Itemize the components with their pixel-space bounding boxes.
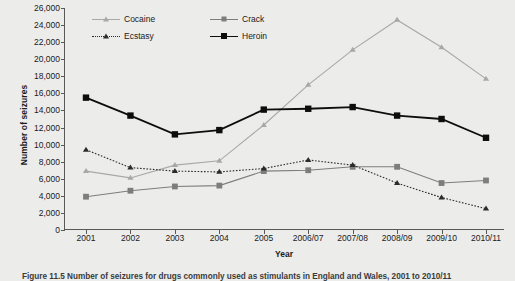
y-tick-label: 14,000: [14, 106, 60, 115]
chart-legend: CocaineCrackEcstasyHeroin: [92, 12, 322, 46]
legend-marker: [103, 17, 109, 22]
y-tick-mark: [61, 128, 65, 129]
y-tick-label: 2,000: [14, 208, 60, 217]
y-tick-mark: [61, 25, 65, 26]
figure-caption: Figure 11.5 Number of seizures for drugs…: [22, 271, 502, 281]
y-tick-label: 10,000: [14, 140, 60, 149]
y-tick-mark: [61, 162, 65, 163]
x-tick-label: 2006/07: [293, 233, 324, 243]
data-point: [394, 17, 400, 22]
data-point: [305, 157, 311, 162]
legend-swatch-ecstasy-icon: [92, 31, 120, 41]
data-point: [439, 180, 445, 186]
series-crack: [83, 164, 489, 200]
y-tick-label: 26,000: [14, 4, 60, 13]
legend-item-cocaine[interactable]: Cocaine: [92, 12, 155, 26]
y-tick-mark: [61, 230, 65, 231]
data-point: [305, 106, 311, 112]
x-tick-label: 2002: [121, 233, 140, 243]
data-point: [83, 194, 89, 200]
series-line: [86, 98, 486, 138]
data-point: [128, 188, 134, 194]
data-point: [83, 147, 89, 152]
legend-label: Ecstasy: [124, 31, 154, 41]
y-tick-label: 18,000: [14, 72, 60, 81]
x-axis-tick-labels: 200120022003200420052006/072007/082008/0…: [64, 233, 504, 247]
y-tick-mark: [61, 42, 65, 43]
legend-item-crack[interactable]: Crack: [210, 12, 264, 26]
y-tick-mark: [61, 93, 65, 94]
x-tick-label: 2008/09: [382, 233, 413, 243]
data-point: [483, 178, 489, 184]
x-tick-label: 2010/11: [471, 233, 501, 243]
series-heroin: [83, 94, 489, 141]
chart-figure: Number of seizures 02,0004,0006,0008,000…: [0, 0, 515, 281]
series-line: [86, 150, 486, 209]
legend-label: Cocaine: [124, 14, 155, 24]
data-point: [483, 135, 489, 141]
data-point: [350, 47, 356, 52]
legend-label: Heroin: [242, 31, 267, 41]
y-tick-label: 8,000: [14, 157, 60, 166]
y-tick-mark: [61, 76, 65, 77]
legend-marker: [221, 33, 227, 39]
y-tick-label: 20,000: [14, 55, 60, 64]
y-tick-label: 4,000: [14, 191, 60, 200]
y-tick-label: 0: [14, 226, 60, 235]
data-point: [349, 104, 355, 110]
legend-swatch-crack-icon: [210, 14, 238, 24]
data-point: [438, 44, 444, 49]
y-tick-mark: [61, 179, 65, 180]
legend-swatch-heroin-icon: [210, 31, 238, 41]
x-tick-label: 2009/10: [426, 233, 457, 243]
data-point: [127, 112, 133, 118]
data-point: [83, 94, 89, 100]
y-tick-mark: [61, 196, 65, 197]
y-tick-label: 22,000: [14, 38, 60, 47]
y-axis-tick-labels: 02,0004,0006,0008,00010,00012,00014,0001…: [14, 8, 60, 230]
legend-item-heroin[interactable]: Heroin: [210, 29, 267, 43]
legend-item-ecstasy[interactable]: Ecstasy: [92, 29, 154, 43]
data-point: [394, 112, 400, 118]
y-tick-mark: [61, 59, 65, 60]
x-axis-title: Year: [64, 249, 504, 259]
x-tick-label: 2007/08: [337, 233, 368, 243]
x-tick-label: 2005: [254, 233, 273, 243]
y-tick-label: 16,000: [14, 89, 60, 98]
x-tick-label: 2003: [165, 233, 184, 243]
legend-marker: [222, 17, 227, 22]
data-point: [216, 183, 222, 189]
x-tick-label: 2004: [210, 233, 229, 243]
data-point: [438, 116, 444, 122]
y-tick-label: 6,000: [14, 174, 60, 183]
y-tick-mark: [61, 213, 65, 214]
data-point: [438, 194, 444, 199]
data-point: [483, 76, 489, 81]
y-tick-mark: [61, 110, 65, 111]
legend-swatch-cocaine-icon: [92, 14, 120, 24]
data-point: [216, 127, 222, 133]
x-tick-label: 2001: [77, 233, 96, 243]
y-tick-label: 24,000: [14, 21, 60, 30]
data-point: [83, 168, 89, 173]
data-point: [394, 164, 400, 170]
data-point: [172, 184, 178, 190]
data-point: [261, 106, 267, 112]
y-tick-label: 12,000: [14, 123, 60, 132]
data-point: [172, 131, 178, 137]
y-tick-mark: [61, 145, 65, 146]
data-point: [305, 167, 311, 173]
y-tick-mark: [61, 8, 65, 9]
legend-label: Crack: [242, 14, 264, 24]
legend-marker: [103, 34, 109, 39]
